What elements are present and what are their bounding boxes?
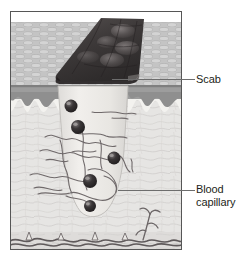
- diagram-canvas: [0, 0, 238, 255]
- callout-label-scab: Scab: [196, 73, 221, 86]
- callout-label-blood-capillary: Bloodcapillary: [196, 183, 235, 208]
- scab-bump-4: [100, 53, 124, 67]
- blood-cell: [108, 152, 121, 165]
- skin-wound-diagram: Scab Bloodcapillary: [0, 0, 238, 255]
- scab-bump-2: [115, 41, 139, 55]
- blood-cell: [71, 120, 85, 134]
- callout-label-blood-capillary-line2: capillary: [196, 196, 235, 208]
- blood-cell: [65, 100, 78, 113]
- illustration-body: [10, 11, 182, 250]
- callout-label-blood-capillary-line1: Blood: [196, 183, 224, 195]
- blood-cell: [83, 174, 97, 188]
- top-margin-strip: [10, 11, 182, 23]
- blood-cell: [84, 200, 96, 212]
